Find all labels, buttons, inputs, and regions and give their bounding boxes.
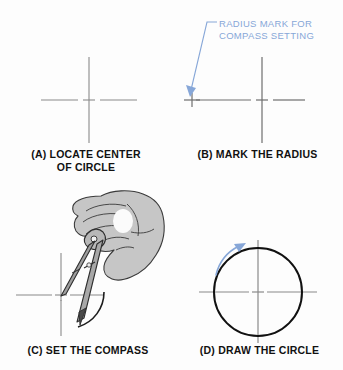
compass-adjust-screw xyxy=(87,263,91,267)
panel-b-caption: (B) MARK THE RADIUS xyxy=(172,148,343,161)
radius-mark-annotation: RADIUS MARK FOR COMPASS SETTING xyxy=(219,18,343,42)
panel-a-caption: (A) LOCATE CENTER OF CIRCLE xyxy=(0,148,172,174)
panel-c-caption: (C) SET THE COMPASS xyxy=(0,344,176,357)
hand-grip-opening xyxy=(113,209,133,233)
figure-background xyxy=(0,0,343,370)
panel-d-caption: (D) DRAW THE CIRCLE xyxy=(176,344,343,357)
compass-procedure-figure xyxy=(0,0,343,370)
